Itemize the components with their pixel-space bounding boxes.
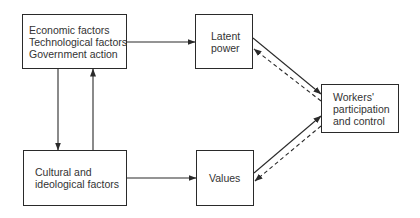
node-drivers-line-1: Economic factors (29, 24, 127, 36)
node-drivers-line-3: Government action (29, 48, 127, 60)
node-values: Values (196, 150, 254, 206)
node-workers-participation: Workers' participation and control (321, 84, 399, 133)
node-latent-power: Latent power (195, 14, 253, 69)
node-latent-power-line-1: Latent (211, 30, 240, 42)
node-cultural-line-2: ideological factors (35, 178, 119, 190)
node-latent-power-line-2: power (211, 42, 240, 54)
arrow-workers-to-values-dashed (255, 126, 321, 181)
arrow-latent-power-to-workers (253, 38, 321, 94)
node-workers-line-3: and control (333, 115, 390, 127)
arrow-values-to-workers (254, 116, 321, 173)
node-workers-line-2: participation (333, 103, 390, 115)
arrow-workers-to-latent-power-dashed (254, 49, 321, 101)
node-drivers-line-2: Technological factors (29, 36, 127, 48)
node-values-line-1: Values (209, 172, 240, 184)
node-cultural-ideological: Cultural and ideological factors (23, 150, 127, 206)
node-cultural-line-1: Cultural and (35, 166, 119, 178)
diagram-canvas: Economic factors Technological factors G… (0, 0, 420, 218)
node-workers-line-1: Workers' (333, 91, 390, 103)
node-drivers: Economic factors Technological factors G… (22, 14, 127, 69)
